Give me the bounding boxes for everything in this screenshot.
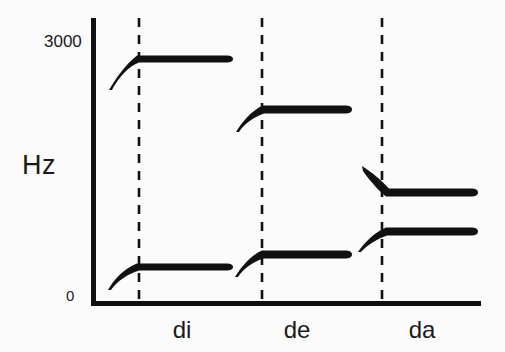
y-tick-label-0: 0: [66, 288, 74, 303]
spectrogram-plot: [0, 0, 505, 352]
formant-da-f2: [362, 166, 478, 197]
formant-di-f1: [108, 264, 233, 291]
x-tick-label-de: de: [267, 316, 327, 344]
x-tick-label-di: di: [152, 316, 212, 344]
formant-de-f1: [235, 251, 352, 278]
formant-di-f2: [109, 56, 233, 91]
formant-de-f2: [236, 106, 352, 133]
y-tick-label-3000: 3000: [44, 33, 82, 50]
formant-da-f1: [358, 228, 478, 253]
y-axis-label: Hz: [22, 152, 56, 179]
x-tick-label-da: da: [392, 316, 452, 344]
formant-transition-figure: Hz 3000 0 di de da: [0, 0, 505, 352]
